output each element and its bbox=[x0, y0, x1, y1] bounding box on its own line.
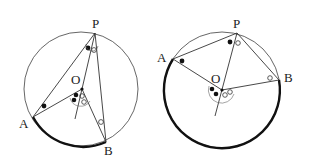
right-mark-b bbox=[268, 76, 273, 81]
right-mark-p-filled bbox=[228, 40, 233, 45]
left-mark-o-filled-2 bbox=[72, 98, 77, 103]
right-mark-o-filled-2 bbox=[214, 92, 219, 97]
right-mark-o-filled-1 bbox=[210, 87, 215, 92]
left-mark-a bbox=[42, 104, 47, 109]
right-arc-ab bbox=[164, 59, 280, 148]
left-label-a: A bbox=[19, 116, 29, 131]
right-mark-o-open-2 bbox=[228, 90, 233, 95]
left-mark-o-open-2 bbox=[82, 100, 87, 105]
left-radius-ob bbox=[82, 89, 106, 142]
right-chord-pb bbox=[237, 33, 279, 80]
right-label-p: P bbox=[233, 16, 240, 31]
left-label-p: P bbox=[92, 16, 99, 31]
left-label-b: B bbox=[104, 143, 113, 158]
diagram-canvas: P O A B P O A B bbox=[0, 0, 309, 161]
left-label-o: O bbox=[71, 72, 80, 87]
right-label-o: O bbox=[211, 71, 220, 86]
right-mark-a bbox=[180, 59, 185, 64]
right-label-b: B bbox=[284, 70, 293, 85]
right-label-a: A bbox=[157, 50, 167, 65]
right-mark-o-open-1 bbox=[223, 93, 228, 98]
left-mark-b bbox=[99, 120, 104, 125]
right-radius-ob bbox=[222, 80, 279, 90]
left-arc-ab bbox=[33, 117, 106, 147]
right-chord-pa bbox=[173, 33, 237, 59]
left-center-dot bbox=[80, 87, 83, 90]
right-mark-p-open bbox=[236, 41, 241, 46]
left-figure: P O A B bbox=[19, 16, 138, 158]
left-mark-o-filled-1 bbox=[74, 93, 79, 98]
right-center-dot bbox=[220, 88, 223, 91]
right-figure: P O A B bbox=[157, 16, 293, 148]
